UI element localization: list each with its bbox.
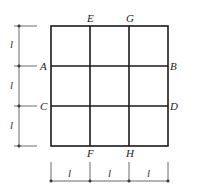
bottom-dim-label-3: l xyxy=(147,167,150,179)
label-e: E xyxy=(86,12,94,24)
left-dim-label-1: l xyxy=(10,38,13,50)
label-g: G xyxy=(126,12,134,24)
bottom-dim-label-1: l xyxy=(68,167,71,179)
left-dim-label-2: l xyxy=(10,79,13,91)
label-f: F xyxy=(86,147,94,159)
bottom-dim-label-2: l xyxy=(108,167,111,179)
left-dim-label-3: l xyxy=(10,119,13,131)
left-dimension xyxy=(14,25,37,147)
grid xyxy=(51,26,168,146)
grid-diagram: E G A B C D F H l l l l l l xyxy=(0,0,203,193)
label-d: D xyxy=(169,100,178,112)
label-b: B xyxy=(170,60,177,72)
label-c: C xyxy=(40,100,48,112)
grid-outline xyxy=(51,26,168,146)
label-a: A xyxy=(39,60,47,72)
label-h: H xyxy=(125,147,135,159)
